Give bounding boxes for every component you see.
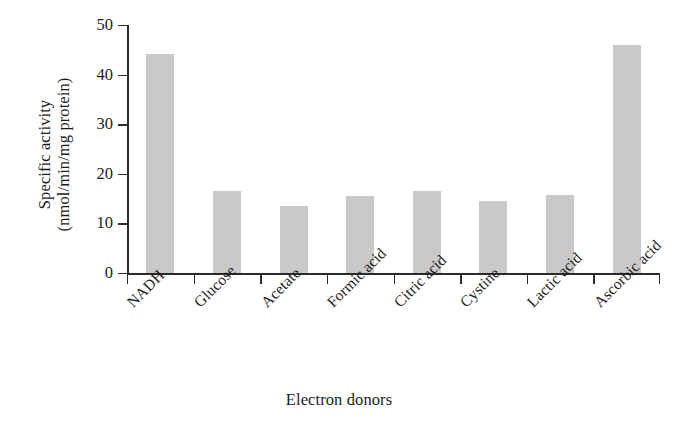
x-axis-tick (394, 273, 395, 284)
y-axis-tick-label: 0 (79, 262, 113, 284)
y-axis-title-line-1: Specific activity (35, 24, 54, 284)
y-axis-tick: 10 (118, 223, 127, 224)
x-axis-tick (327, 273, 328, 284)
y-axis-tick-label: 10 (79, 212, 113, 234)
bar[interactable] (280, 206, 308, 273)
y-axis-tick: 40 (118, 75, 127, 76)
y-axis-tick: 0 (118, 273, 127, 274)
y-axis-line (127, 25, 129, 273)
bar[interactable] (146, 54, 174, 273)
y-axis-title-line-2: (nmol/min/mg protein) (54, 24, 73, 284)
bar[interactable] (479, 201, 507, 273)
x-axis-tick (659, 273, 660, 284)
bar-chart-figure: Specific activity (nmol/min/mg protein) … (0, 0, 678, 425)
x-axis-tick (527, 273, 528, 284)
x-axis-tick (260, 273, 261, 284)
x-axis-title: Electron donors (0, 390, 678, 410)
y-axis-tick: 20 (118, 174, 127, 175)
plot-area: 01020304050 (127, 25, 660, 273)
x-axis-tick (194, 273, 195, 284)
y-axis-tick-label: 30 (79, 113, 113, 135)
x-axis-tick (460, 273, 461, 284)
y-axis-tick-label: 50 (79, 14, 113, 36)
y-axis-title: Specific activity (nmol/min/mg protein) (35, 24, 74, 284)
y-axis-tick-label: 40 (79, 64, 113, 86)
x-axis-tick (593, 273, 594, 284)
bar[interactable] (613, 45, 641, 273)
y-axis-tick: 30 (118, 124, 127, 125)
y-axis-tick-label: 20 (79, 163, 113, 185)
x-axis-tick (127, 273, 128, 284)
y-axis-tick: 50 (118, 25, 127, 26)
